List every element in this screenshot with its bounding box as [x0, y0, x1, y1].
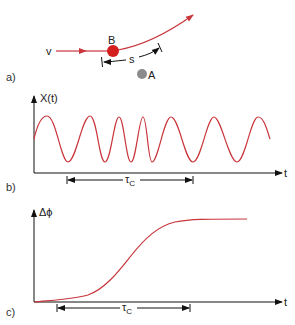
- deflected-trajectory: [118, 15, 193, 50]
- oscillation-curve: [34, 116, 270, 162]
- velocity-label: v: [46, 45, 52, 57]
- panel-c-label: c): [6, 306, 15, 318]
- particle-b: [107, 45, 119, 57]
- phase-shift-curve: [34, 219, 247, 302]
- x-axis-label: t: [284, 167, 287, 179]
- y-axis-label: Δϕ: [39, 206, 53, 218]
- panel-a-label: a): [6, 71, 16, 83]
- particle-a-label: A: [148, 69, 156, 81]
- tau-c-label: τC: [125, 173, 135, 188]
- panel-b-label: b): [6, 181, 16, 193]
- panel-c: c) Δϕ t τC: [6, 206, 287, 318]
- particle-a: [137, 69, 147, 79]
- y-axis-label: X(t): [40, 92, 58, 104]
- particle-b-label: B: [108, 34, 115, 46]
- collision-diagram: a) v B s A b) X(t) t: [0, 0, 295, 325]
- tau-c-label: τC: [122, 301, 132, 316]
- x-axis-label: t: [284, 296, 287, 308]
- panel-a: a) v B s A: [6, 15, 193, 83]
- distance-label: s: [129, 53, 135, 65]
- panel-b: b) X(t) t τC: [6, 92, 287, 193]
